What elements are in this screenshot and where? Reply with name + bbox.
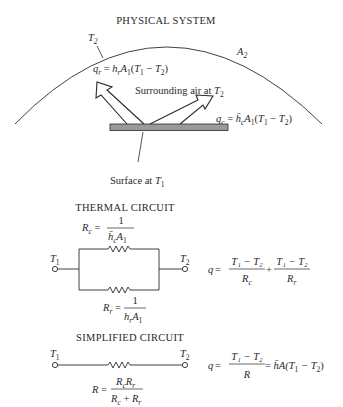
rr-formula-numerator: 1 [132,295,137,306]
simplified-node-t1-label: T1 [50,348,60,362]
svg-text:=: = [215,360,221,371]
svg-text:T₁ − T₂: T₁ − T₂ [231,256,263,267]
simplified-node-t2-label: T2 [180,348,190,362]
surface-leader-line [138,132,143,162]
surrounding-air-label: Surrounding air at T2 [135,85,224,99]
svg-text:R: R [243,369,251,380]
svg-text:T₁ − T₂: T₁ − T₂ [276,256,308,267]
simplified-circuit-title: SIMPLIFIED CIRCUIT [76,332,184,343]
radiation-equation: qr = hrA1(T1 − T2) [93,63,169,77]
resistor-rr-icon [79,287,159,293]
enclosure-area-label: A2 [236,46,247,60]
svg-text:RcRr: RcRr [115,376,135,390]
heat-transfer-diagram: PHYSICAL SYSTEM T2 A2 qr = hrA1(T1 − T2)… [0,0,343,407]
thermal-node-t1-label: T1 [50,253,60,267]
svg-text:=: = [215,264,221,275]
svg-text:T₁ − T₂: T₁ − T₂ [231,351,263,362]
node-t2-icon [182,362,187,367]
thermal-circuit-title: THERMAL CIRCUIT [75,202,175,213]
simplified-circuit-section: SIMPLIFIED CIRCUIT T1 T2 R = RcRr Rc + R… [50,332,324,407]
svg-text:= h̄A(T1 − T2): = h̄A(T1 − T2) [265,360,324,374]
rc-formula-numerator: 1 [118,215,123,226]
svg-text:Rc: Rc [241,273,252,287]
rc-formula-denominator: h̄cA1 [108,231,127,245]
physical-system-section: PHYSICAL SYSTEM T2 A2 qr = hrA1(T1 − T2)… [15,15,322,189]
rc-formula-lhs: Rc = [81,222,100,236]
series-circuit [52,362,187,368]
svg-text:q: q [208,264,213,275]
convection-arrow-icon [150,95,213,124]
surface-plate [110,124,228,131]
svg-text:q: q [208,360,213,371]
node-t1-icon [52,362,57,367]
node-t1-icon [52,266,57,271]
parallel-circuit [52,246,187,293]
node-t2-icon [182,266,187,271]
thermal-circuit-section: THERMAL CIRCUIT Rc = 1 h̄cA1 T1 T2 q = T… [50,202,310,325]
simplified-q-equation: q = T₁ − T₂ R = h̄A(T1 − T2) [208,351,324,380]
surface-label: Surface at T1 [110,175,165,189]
rr-formula-lhs: Rr = [102,302,121,316]
thermal-node-t2-label: T2 [180,253,190,267]
physical-system-title: PHYSICAL SYSTEM [116,15,216,26]
resistor-r-icon [58,362,183,368]
svg-text:Rr: Rr [286,273,296,287]
enclosure-temp-label: T2 [88,32,98,46]
rr-formula-denominator: hrA1 [124,311,143,325]
svg-text:R =: R = [91,384,107,395]
r-equivalent-formula: R = RcRr Rc + Rr [91,376,143,407]
svg-text:+: + [266,264,272,275]
thermal-q-equation: q = T₁ − T₂ Rc + T₁ − T₂ Rr [208,256,310,287]
resistor-rc-icon [79,246,159,252]
svg-text:Rc + Rr: Rc + Rr [110,393,141,407]
enclosure-leader-line [97,46,103,58]
